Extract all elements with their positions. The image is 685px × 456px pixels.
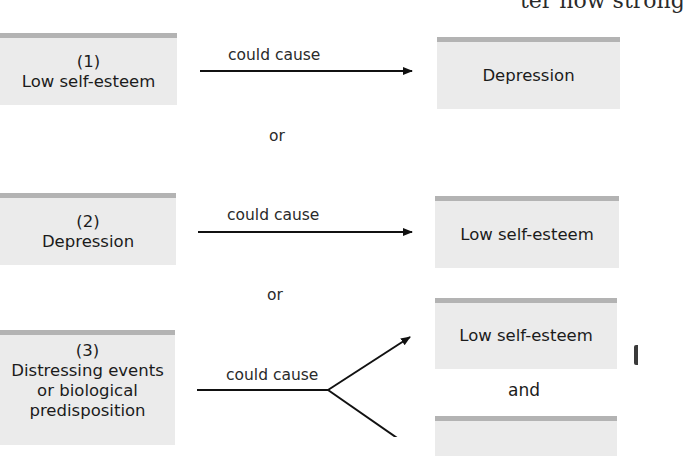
- arrow-3-branch-down: [328, 390, 400, 437]
- arrow-3-branch-up: [328, 337, 410, 390]
